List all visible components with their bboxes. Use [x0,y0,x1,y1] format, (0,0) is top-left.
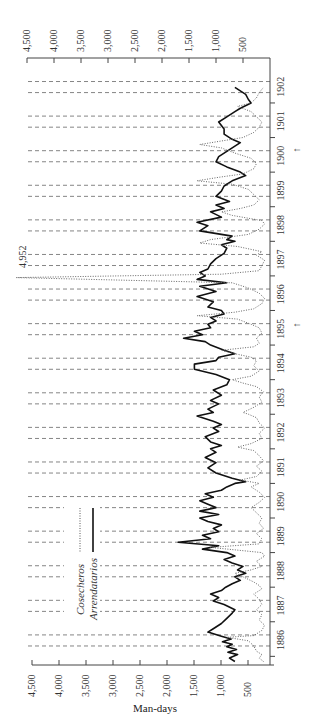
year-label: 1894 [275,353,286,373]
bottom-tick-label: 500 [242,682,253,697]
series-line-arrendatarios [178,87,251,661]
peak-annotation: 4,952 [17,246,28,269]
top-tick-label: 500 [237,37,248,52]
year-label: 1893 [275,388,286,408]
year-label: 1889 [275,526,286,546]
top-tick-label: 1,000 [210,30,221,53]
man-days-chart: 4,5004,0003,5003,0002,5002,0001,5001,000… [0,0,311,717]
year-label: 1892 [275,423,286,443]
year-label: 1888 [275,561,286,581]
year-markers: ↑ ↑ [291,148,302,328]
series-line-cosecheros [16,87,264,661]
year-label: 1890 [275,492,286,512]
top-tick-label: 2,000 [156,30,167,53]
year-label: 1901 [275,111,286,131]
legend-label-arrendatarios: Arrendatarios [87,558,99,621]
bottom-tick-label: 2,000 [161,675,172,698]
year-label: 1887 [275,595,286,615]
year-label: 1898 [275,215,286,235]
bottom-tick-label: 4,000 [53,675,64,698]
bottom-tick-label: 4,500 [26,675,37,698]
bottom-tick-label: 2,500 [134,675,145,698]
top-tick-label: 1,500 [183,30,194,53]
year-label: 1899 [275,180,286,200]
top-tick-label: 4,500 [21,30,32,53]
top-tick-label: 3,500 [75,30,86,53]
bottom-tick-label: 3,000 [107,675,118,698]
top-tick-label: 2,500 [129,30,140,53]
year-label: 1902 [275,77,286,97]
year-label: 1900 [275,146,286,166]
legend: Cosecheros Arrendatarios [64,505,100,625]
year-label: 1896 [275,284,286,304]
bottom-tick-label: 3,500 [80,675,91,698]
arrow-marker-1900: ↑ [291,148,302,153]
year-label: 1886 [275,630,286,650]
year-label: 1891 [275,457,286,477]
arrow-marker-1895: ↑ [291,323,302,328]
bottom-value-axis: 4,5004,0003,5003,0002,5002,0001,5001,000… [26,660,253,697]
year-label: 1895 [275,319,286,339]
series-layer [16,87,264,661]
year-axis: 1886188718881889189018911892189318941895… [270,77,286,657]
legend-label-cosecheros: Cosecheros [74,564,86,615]
bottom-tick-label: 1,000 [215,675,226,698]
top-tick-label: 3,000 [102,30,113,53]
bottom-tick-label: 1,500 [188,675,199,698]
value-axis-title: Man-days [133,702,177,714]
top-tick-label: 4,000 [48,30,59,53]
year-label: 1897 [275,250,286,270]
